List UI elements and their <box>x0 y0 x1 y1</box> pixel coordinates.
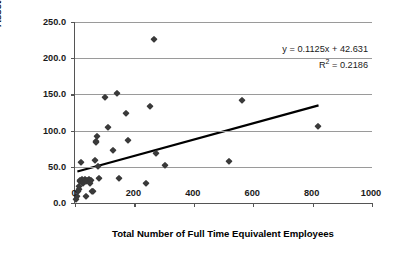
gridline-y <box>75 22 372 23</box>
r-squared-text: R2 = 0.2186 <box>243 56 368 72</box>
gridline-y <box>75 131 372 132</box>
data-point <box>78 158 84 164</box>
data-point <box>315 122 321 128</box>
y-tick-label: 100.0 <box>22 126 66 136</box>
x-tick-mark <box>75 203 76 207</box>
scatter-chart: Assets Under Management as at Dec 2010 (… <box>0 0 398 254</box>
x-tick-label: 1000 <box>349 188 393 198</box>
trendline-segment <box>77 105 318 171</box>
data-point <box>125 137 131 143</box>
gridline-y <box>75 167 372 168</box>
x-tick-label: 200 <box>111 188 155 198</box>
regression-annotation: y = 0.1125x + 42.631 R2 = 0.2186 <box>243 44 368 71</box>
x-tick-mark <box>194 203 195 207</box>
x-tick-label: 800 <box>290 188 334 198</box>
x-tick-mark <box>253 203 254 207</box>
x-tick-mark <box>372 203 373 207</box>
data-point <box>116 175 122 181</box>
data-point <box>153 150 159 156</box>
data-point <box>110 147 116 153</box>
data-point <box>123 110 129 116</box>
y-tick-label: 200.0 <box>22 53 66 63</box>
x-tick-label: 400 <box>171 188 215 198</box>
x-tick-label: 600 <box>230 188 274 198</box>
y-tick-mark <box>71 94 75 95</box>
x-axis-title: Total Number of Full Time Equivalent Emp… <box>74 228 372 239</box>
data-point <box>96 174 102 180</box>
x-tick-label: 0 <box>52 188 96 198</box>
y-tick-mark <box>71 58 75 59</box>
y-axis-title: Assets Under Management as at Dec 2010 (… <box>0 0 16 28</box>
y-tick-label: 250.0 <box>22 17 66 27</box>
y-tick-label: 150.0 <box>22 89 66 99</box>
regression-equation: y = 0.1125x + 42.631 <box>243 44 368 56</box>
r-squared-value: = 0.2186 <box>329 60 368 70</box>
y-tick-mark <box>71 167 75 168</box>
r-squared-label: R <box>319 60 326 70</box>
data-point <box>91 157 97 163</box>
data-point <box>95 163 101 169</box>
y-tick-label: 50.0 <box>22 162 66 172</box>
y-tick-label: 0.0 <box>22 198 66 208</box>
y-tick-mark <box>71 22 75 23</box>
data-point <box>226 158 232 164</box>
data-point <box>150 36 156 42</box>
data-point <box>239 97 245 103</box>
data-point <box>94 132 100 138</box>
data-point <box>101 94 107 100</box>
y-tick-mark <box>71 131 75 132</box>
gridline-y <box>75 94 372 95</box>
data-point <box>147 103 153 109</box>
x-tick-mark <box>134 203 135 207</box>
x-tick-mark <box>313 203 314 207</box>
data-point <box>143 179 149 185</box>
data-point <box>104 124 110 130</box>
